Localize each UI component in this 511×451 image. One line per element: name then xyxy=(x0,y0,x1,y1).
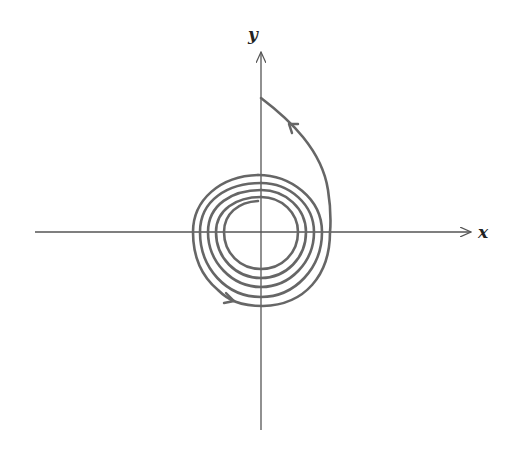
y-axis-label: y xyxy=(247,24,259,44)
phase-portrait-diagram: x y xyxy=(0,0,511,451)
spiral-trajectory xyxy=(193,98,331,306)
x-axis-label: x xyxy=(477,222,489,242)
